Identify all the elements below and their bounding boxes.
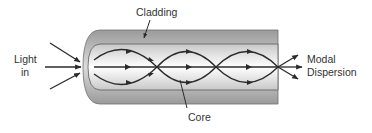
light-in-label-line1: Light	[14, 53, 37, 65]
light-in-label-line2: in	[21, 66, 29, 78]
dispersion-label: Dispersion	[307, 66, 357, 78]
input-light-rays	[45, 43, 81, 89]
modal-label: Modal	[307, 53, 336, 65]
output-rays	[278, 55, 302, 79]
cladding-label: Cladding	[136, 6, 178, 18]
modal-dispersion-diagram: Cladding Light in Core Modal Dispersion	[0, 0, 372, 133]
core-label: Core	[188, 111, 211, 123]
